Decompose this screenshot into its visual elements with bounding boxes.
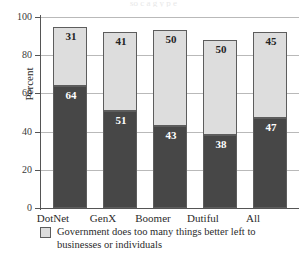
bar-segment-dark-dutiful: 38 xyxy=(203,135,237,208)
y-tick-label-60: 60 xyxy=(0,88,32,98)
bar-segment-dark-dotnet: 64 xyxy=(53,86,87,208)
stacked-bar-chart: so c a g y p e Percent 100 80 60 40 20 0… xyxy=(0,0,307,253)
bar-value-dark-genx: 51 xyxy=(104,115,137,126)
x-tick-label-all: All xyxy=(218,212,288,224)
bar-value-light-dotnet: 31 xyxy=(54,31,87,42)
bar-value-light-all: 45 xyxy=(254,36,287,47)
bar-segment-dark-boomer: 43 xyxy=(153,126,187,208)
legend-label-line-1: Government does too many things better l… xyxy=(57,226,256,237)
bar-group-dutiful: 38 50 xyxy=(203,40,237,208)
bar-segment-light-genx: 41 xyxy=(103,32,137,110)
bar-value-dark-boomer: 43 xyxy=(154,130,187,141)
bar-group-all: 47 45 xyxy=(253,32,287,208)
bar-group-boomer: 43 50 xyxy=(153,30,187,208)
gridline-100 xyxy=(41,17,299,18)
bar-value-light-boomer: 50 xyxy=(154,34,187,45)
bar-group-genx: 51 41 xyxy=(103,32,137,208)
bar-segment-light-dotnet: 31 xyxy=(53,27,87,86)
y-tick-label-80: 80 xyxy=(0,50,32,60)
y-tick-label-100: 100 xyxy=(0,12,32,22)
bar-value-light-genx: 41 xyxy=(104,36,137,47)
bar-segment-light-boomer: 50 xyxy=(153,30,187,126)
legend-entry-label: Government does too many things better l… xyxy=(57,226,256,251)
bar-segment-dark-genx: 51 xyxy=(103,111,137,208)
bar-value-light-dutiful: 50 xyxy=(204,44,237,55)
plot-area: 64 31 51 41 43 50 38 xyxy=(41,17,299,208)
legend-swatch-icon xyxy=(40,227,51,238)
bar-value-dark-dotnet: 64 xyxy=(54,90,87,101)
bar-group-dotnet: 64 31 xyxy=(53,27,87,209)
chart-title-remnant: so c a g y p e xyxy=(0,0,307,7)
y-tick-label-20: 20 xyxy=(0,165,32,175)
x-axis-line xyxy=(40,208,299,209)
bar-value-dark-dutiful: 38 xyxy=(204,139,237,150)
chart-legend: Government does too many things better l… xyxy=(40,226,302,251)
legend-label-line-2: businesses or individuals xyxy=(57,239,162,250)
y-tick-label-40: 40 xyxy=(0,127,32,137)
bar-value-dark-all: 47 xyxy=(254,122,287,133)
bar-segment-light-all: 45 xyxy=(253,32,287,118)
bar-segment-dark-all: 47 xyxy=(253,118,287,208)
bar-segment-light-dutiful: 50 xyxy=(203,40,237,136)
